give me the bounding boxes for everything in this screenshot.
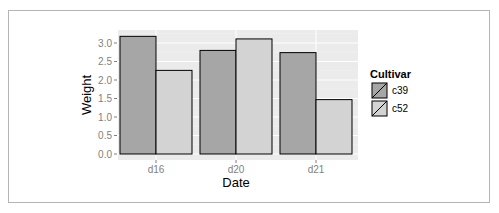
legend-label-c52: c52: [392, 103, 409, 114]
y-axis-title: Weight: [79, 75, 94, 116]
y-tick-label: 0.0: [98, 149, 112, 160]
bar-chart: 0.00.51.01.52.02.53.0 d16d20d21 Date Wei…: [0, 0, 499, 213]
bar-d21-c39: [280, 53, 316, 154]
y-axis: 0.00.51.01.52.02.53.0: [98, 38, 117, 160]
x-tick-label-d21: d21: [308, 164, 325, 175]
y-tick-label: 2.5: [98, 56, 112, 67]
bar-d16-c52: [156, 70, 192, 154]
x-axis-title: Date: [222, 175, 249, 190]
legend-label-c39: c39: [392, 85, 409, 96]
x-axis: d16d20d21: [148, 160, 325, 175]
bar-d21-c52: [316, 100, 352, 154]
y-tick-label: 3.0: [98, 38, 112, 49]
y-tick-label: 0.5: [98, 130, 112, 141]
x-tick-label-d16: d16: [148, 164, 165, 175]
y-tick-label: 2.0: [98, 75, 112, 86]
bar-d20-c39: [200, 50, 236, 154]
bar-d16-c39: [120, 36, 156, 154]
legend-title: Cultivar: [370, 68, 412, 80]
bar-d20-c52: [236, 39, 272, 154]
y-tick-label: 1.0: [98, 112, 112, 123]
y-tick-label: 1.5: [98, 93, 112, 104]
legend: Cultivar c39c52: [370, 68, 412, 117]
x-tick-label-d20: d20: [228, 164, 245, 175]
